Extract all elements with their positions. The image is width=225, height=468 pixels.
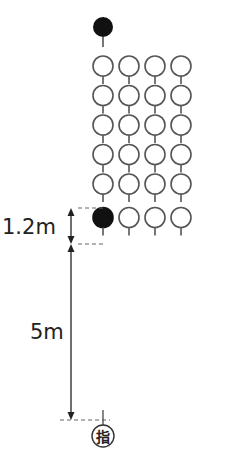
- person: [171, 208, 191, 236]
- person: [93, 86, 113, 114]
- person: [145, 56, 165, 84]
- leader-person: [93, 17, 113, 47]
- person: [93, 56, 113, 84]
- person: [171, 115, 191, 143]
- person: [145, 115, 165, 143]
- person: [145, 174, 165, 202]
- person: [119, 56, 139, 84]
- instructor-marker: 指: [92, 410, 114, 447]
- person: [119, 86, 139, 114]
- instructor-glyph: 指: [96, 429, 110, 445]
- person: [171, 56, 191, 84]
- person: [93, 174, 113, 202]
- person: [93, 145, 113, 173]
- person-grid: [93, 56, 191, 236]
- person: [171, 145, 191, 173]
- dimension-label-5m: 5m: [30, 320, 64, 344]
- dimension-1-2m: 1.2m: [2, 208, 103, 244]
- dimension-5m: 5m: [30, 244, 110, 420]
- person-filled: [93, 208, 113, 236]
- person: [145, 208, 165, 236]
- person: [119, 208, 139, 236]
- person: [93, 115, 113, 143]
- person: [171, 174, 191, 202]
- person: [145, 145, 165, 173]
- formation-diagram: 1.2m 5m 指: [0, 0, 225, 468]
- person: [119, 145, 139, 173]
- person: [119, 115, 139, 143]
- person: [119, 174, 139, 202]
- person: [145, 86, 165, 114]
- person: [171, 86, 191, 114]
- dimension-label-1-2m: 1.2m: [2, 215, 56, 239]
